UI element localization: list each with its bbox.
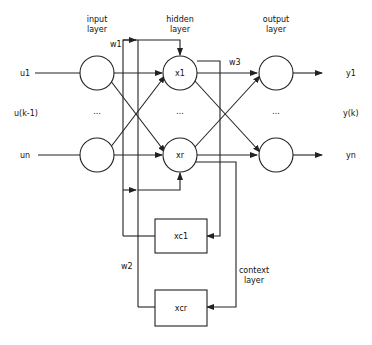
weight-w2-label: w2	[121, 262, 133, 271]
output-yk-label: y(k)	[343, 109, 359, 118]
context-layer-title-2: layer	[244, 276, 265, 285]
input-u1-label: u1	[20, 69, 30, 78]
hidden-layer-title-2: layer	[170, 25, 191, 34]
input-ellipsis: ...	[93, 107, 101, 116]
hidden-layer-title: hidden	[166, 15, 193, 24]
hidden-xr-label: xr	[176, 151, 185, 160]
output-yn-label: yn	[346, 151, 356, 160]
output-layer-title: output	[263, 15, 289, 24]
context-bus-line-a	[123, 40, 138, 236]
input-layer-title-2: layer	[87, 25, 108, 34]
context-layer-title: context	[239, 266, 269, 275]
feedback-to-xr	[138, 173, 180, 190]
elman-network-diagram: input layer hidden layer output layer co…	[0, 0, 372, 345]
weight-w1-label: w1	[110, 40, 122, 49]
input-node-1	[80, 56, 114, 90]
input-uk1-label: u(k-1)	[14, 109, 38, 118]
conn-x1-yn	[194, 80, 260, 152]
hidden-ellipsis: ...	[176, 107, 184, 116]
input-layer-title: input	[87, 15, 108, 24]
hidden-x1-label: x1	[175, 69, 185, 78]
output-y1-label: y1	[346, 69, 356, 78]
output-ellipsis: ...	[272, 107, 280, 116]
input-un-label: un	[20, 151, 30, 160]
output-node-n	[259, 138, 293, 172]
output-node-1	[259, 56, 293, 90]
input-node-n	[80, 138, 114, 172]
context-xc1-label: xc1	[174, 232, 188, 241]
context-xcr-label: xcr	[175, 304, 188, 313]
conn-xr-y1	[194, 76, 260, 148]
weight-w3-label: w3	[229, 58, 241, 67]
feedback-to-x1	[138, 40, 180, 55]
output-layer-title-2: layer	[266, 25, 287, 34]
